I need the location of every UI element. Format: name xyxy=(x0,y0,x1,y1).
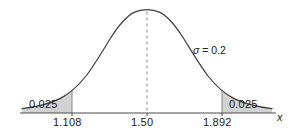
x-axis-label: x xyxy=(277,112,283,123)
normal-distribution-figure: 0.025 0.025 1.108 1.50 1.892 σ = 0.2 x xyxy=(0,0,293,140)
right-tail-area-label: 0.025 xyxy=(229,99,258,110)
x-tick-label-mean: 1.50 xyxy=(131,117,153,128)
x-tick-label-lower: 1.108 xyxy=(53,117,82,128)
sigma-equals-sign: = xyxy=(199,44,211,56)
sigma-parameter-label: σ = 0.2 xyxy=(193,45,226,56)
left-tail-area-label: 0.025 xyxy=(29,99,58,110)
sigma-value: 0.2 xyxy=(211,44,226,56)
x-tick-label-upper: 1.892 xyxy=(203,117,232,128)
